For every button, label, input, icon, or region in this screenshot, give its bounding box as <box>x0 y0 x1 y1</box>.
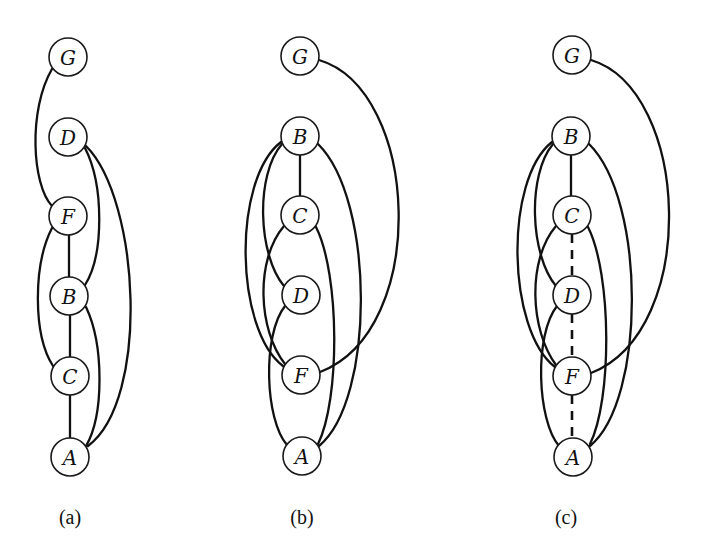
node-label: F <box>293 364 309 388</box>
node-d: D <box>553 276 591 314</box>
panel-b-caption: (b) <box>290 506 313 529</box>
edge-b-a <box>589 144 632 446</box>
panel-c-graph: GBCDFA <box>517 36 669 476</box>
node-f: F <box>49 197 87 235</box>
node-label: B <box>292 125 308 149</box>
node-label: C <box>564 204 579 228</box>
node-label: B <box>563 125 579 149</box>
node-label: C <box>292 204 307 228</box>
node-label: C <box>62 365 77 389</box>
node-label: F <box>564 365 580 389</box>
node-label: G <box>292 45 308 69</box>
node-label: G <box>564 44 580 68</box>
edge-c-a <box>588 227 606 444</box>
node-f: F <box>553 357 591 395</box>
node-c: C <box>281 196 319 234</box>
edge-c-a <box>316 227 334 444</box>
node-label: F <box>60 205 76 229</box>
node-g: G <box>553 36 591 74</box>
node-b: B <box>281 117 319 155</box>
edge-b-f <box>246 142 283 366</box>
edge-g-f <box>319 60 399 372</box>
node-c: C <box>51 357 89 395</box>
node-f: F <box>282 356 320 394</box>
panel-a-graph: GDFBCA <box>35 38 130 476</box>
node-a: A <box>554 438 592 476</box>
panel-b-graph: GBCDFA <box>246 37 399 475</box>
graph-diagram-canvas: GDFBCA GBCDFA GBCDFA <box>0 0 704 556</box>
node-b: B <box>552 117 590 155</box>
node-c: C <box>553 196 591 234</box>
node-label: A <box>293 445 309 469</box>
edge-d-a <box>86 146 131 446</box>
node-label: A <box>564 446 580 470</box>
node-g: G <box>49 38 87 76</box>
panel-c-caption: (c) <box>555 506 577 529</box>
node-label: D <box>563 284 580 308</box>
node-label: D <box>292 284 309 308</box>
edge-b-f <box>517 142 555 367</box>
node-b: B <box>50 277 88 315</box>
node-g: G <box>281 37 319 75</box>
node-a: A <box>51 438 89 476</box>
node-d: D <box>49 118 87 156</box>
node-label: B <box>61 285 77 309</box>
node-a: A <box>283 437 321 475</box>
node-label: G <box>60 46 76 70</box>
edge-b-a <box>318 144 361 446</box>
node-label: D <box>59 126 76 150</box>
node-label: A <box>61 446 77 470</box>
node-d: D <box>282 276 320 314</box>
panel-a-caption: (a) <box>59 506 81 529</box>
